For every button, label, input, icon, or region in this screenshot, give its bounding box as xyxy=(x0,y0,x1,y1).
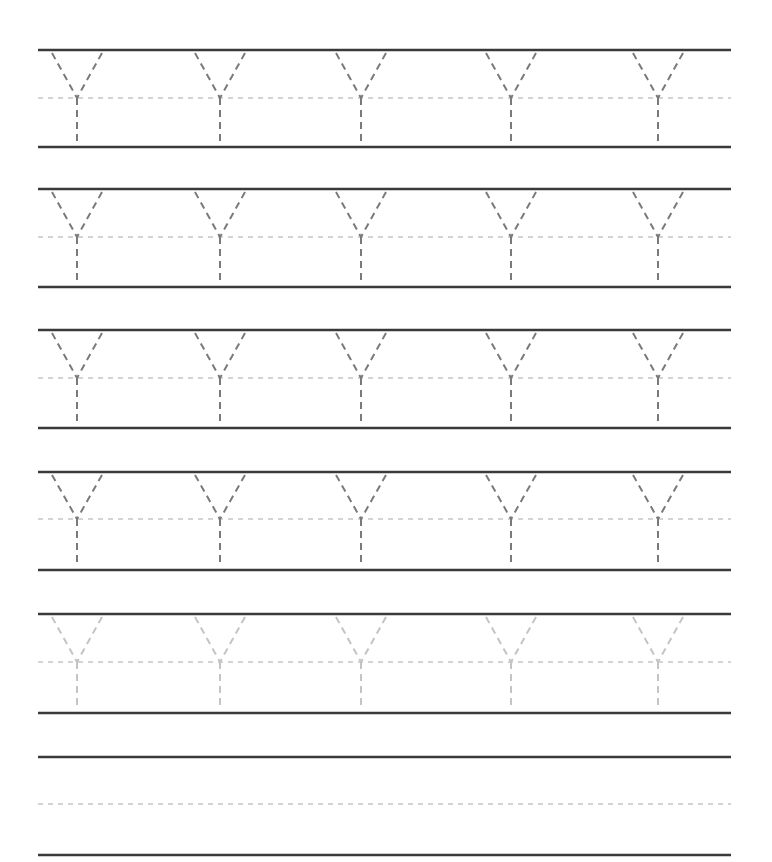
practice-row-3 xyxy=(38,330,731,428)
practice-row-4 xyxy=(38,472,731,570)
left-arm xyxy=(195,192,220,237)
trace-letter-y xyxy=(52,333,102,425)
left-arm xyxy=(336,333,361,378)
left-arm xyxy=(633,475,658,519)
right-arm xyxy=(220,333,245,378)
right-arm xyxy=(511,53,536,98)
right-arm xyxy=(511,333,536,378)
right-arm xyxy=(220,617,245,662)
right-arm xyxy=(361,192,386,237)
trace-letter-y xyxy=(195,192,245,284)
left-arm xyxy=(633,333,658,378)
right-arm xyxy=(77,53,102,98)
practice-row-5 xyxy=(38,614,731,713)
right-arm xyxy=(77,192,102,237)
trace-letter-y xyxy=(336,617,386,710)
trace-letter-y xyxy=(52,475,102,567)
trace-letter-y xyxy=(336,475,386,567)
left-arm xyxy=(486,53,511,98)
left-arm xyxy=(52,617,77,662)
handwriting-worksheet xyxy=(0,0,772,862)
right-arm xyxy=(658,192,683,237)
left-arm xyxy=(195,53,220,98)
left-arm xyxy=(486,333,511,378)
right-arm xyxy=(361,475,386,519)
right-arm xyxy=(77,617,102,662)
right-arm xyxy=(658,53,683,98)
right-arm xyxy=(220,192,245,237)
right-arm xyxy=(361,53,386,98)
left-arm xyxy=(336,475,361,519)
trace-letter-y xyxy=(633,192,683,284)
right-arm xyxy=(658,617,683,662)
left-arm xyxy=(336,53,361,98)
left-arm xyxy=(633,617,658,662)
trace-letter-y xyxy=(195,475,245,567)
right-arm xyxy=(511,617,536,662)
right-arm xyxy=(220,475,245,519)
trace-letter-y xyxy=(336,192,386,284)
left-arm xyxy=(52,53,77,98)
practice-lines xyxy=(0,0,772,862)
left-arm xyxy=(195,475,220,519)
trace-letter-y xyxy=(486,192,536,284)
right-arm xyxy=(361,333,386,378)
left-arm xyxy=(633,192,658,237)
left-arm xyxy=(633,53,658,98)
left-arm xyxy=(486,192,511,237)
right-arm xyxy=(77,333,102,378)
right-arm xyxy=(658,333,683,378)
trace-letter-y xyxy=(633,617,683,710)
left-arm xyxy=(486,617,511,662)
trace-letter-y xyxy=(195,617,245,710)
trace-letter-y xyxy=(195,333,245,425)
trace-letter-y xyxy=(633,333,683,425)
right-arm xyxy=(361,617,386,662)
practice-row-2 xyxy=(38,189,731,287)
trace-letter-y xyxy=(52,617,102,710)
right-arm xyxy=(220,53,245,98)
trace-letter-y xyxy=(486,617,536,710)
right-arm xyxy=(77,475,102,519)
trace-letter-y xyxy=(633,475,683,567)
trace-letter-y xyxy=(486,333,536,425)
right-arm xyxy=(511,475,536,519)
left-arm xyxy=(336,192,361,237)
left-arm xyxy=(195,333,220,378)
trace-letter-y xyxy=(336,333,386,425)
left-arm xyxy=(52,333,77,378)
right-arm xyxy=(658,475,683,519)
trace-letter-y xyxy=(52,192,102,284)
left-arm xyxy=(52,192,77,237)
trace-letter-y xyxy=(486,475,536,567)
left-arm xyxy=(52,475,77,519)
practice-row-6 xyxy=(38,757,731,855)
right-arm xyxy=(511,192,536,237)
practice-row-1 xyxy=(38,50,731,147)
left-arm xyxy=(486,475,511,519)
left-arm xyxy=(336,617,361,662)
left-arm xyxy=(195,617,220,662)
